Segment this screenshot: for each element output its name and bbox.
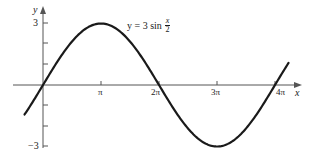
y-axis-label: y <box>33 5 37 15</box>
x-tick-label-pi: π <box>98 88 103 97</box>
x-tick-label-4pi: 4π <box>276 88 285 97</box>
equation-fraction: x 2 <box>165 17 171 34</box>
x-ticks <box>101 81 275 85</box>
fraction-denominator: 2 <box>166 26 170 34</box>
y-axis-arrow-icon <box>40 6 46 14</box>
y-tick-label-neg3: −3 <box>28 141 39 151</box>
equation-lhs: y = 3 sin <box>127 20 162 31</box>
x-axis-label: x <box>295 88 299 98</box>
x-tick-label-2pi: 2π <box>151 88 160 97</box>
x-tick-label-3pi: 3π <box>211 88 220 97</box>
y-tick-label-3: 3 <box>33 18 38 28</box>
equation-label: y = 3 sin x 2 <box>127 17 170 34</box>
